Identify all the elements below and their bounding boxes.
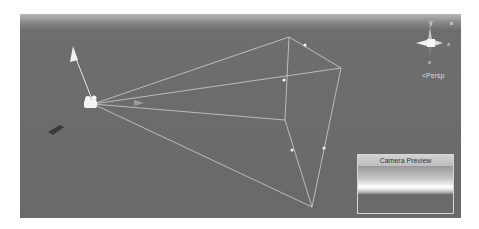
camera-up-arrow[interactable] [70,46,93,102]
svg-text:y: y [429,19,433,27]
projection-mode-label[interactable]: <Persp [422,72,444,79]
camera-preview-panel: Camera Preview [357,154,454,214]
camera-frustum [93,37,341,207]
axis-gizmo-icon: y z x [412,16,460,76]
svg-text:x: x [428,59,431,65]
camera-preview-sky [358,166,453,194]
camera-preview-ground [358,194,453,213]
scene-viewport[interactable]: y z x <Persp Camera Preview [20,14,461,218]
camera-forward-arrow [134,100,144,106]
svg-text:z: z [447,41,450,47]
orientation-gizmo[interactable]: y z x [412,16,460,76]
frustum-handles[interactable] [282,43,325,151]
camera-preview-title: Camera Preview [358,155,453,166]
camera-icon[interactable] [84,96,97,109]
directional-light-icon[interactable] [48,125,64,135]
